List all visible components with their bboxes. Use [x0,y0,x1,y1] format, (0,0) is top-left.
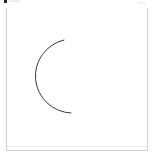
drawing-layer[interactable] [0,0,156,158]
arc-shape[interactable] [35,40,71,113]
